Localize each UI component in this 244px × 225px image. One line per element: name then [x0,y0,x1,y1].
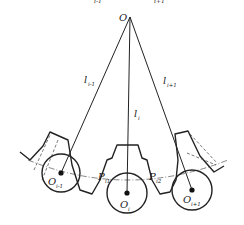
label-l-i-minus-1-sub: i-1 [88,81,95,87]
cropped-label-left: i-1 [94,0,102,4]
label-apex-o: O [119,12,127,23]
label-l-i-plus-1-sub: i+1 [167,82,177,88]
label-l-i: l [134,108,137,119]
label-l-i-plus-1: l [163,75,166,86]
center-o-i-plus-1 [189,187,194,192]
label-p-i2-sub: i2 [156,178,162,184]
label-p-i1-sub: i1 [105,178,110,184]
center-o-i-minus-1 [58,170,63,175]
label-p-i1: P [97,171,105,182]
label-p-i2: P [148,171,156,182]
label-o-i-plus-1: O [183,194,191,205]
ray-l-i-minus-1 [61,17,130,173]
label-l-i-minus-1: l [84,74,87,85]
label-o-i: O [120,199,128,210]
cropped-label-right: i+1 [154,0,165,4]
guide-left [42,140,58,180]
label-o-i-plus-1-sub: i+1 [191,201,201,207]
center-o-i [124,190,129,195]
guide-right-2 [190,134,217,163]
guide-right [187,153,216,165]
label-o-i-minus-1-sub: i-1 [56,183,63,189]
label-o-i-minus-1: O [48,176,56,187]
label-o-i-sub: i [128,206,130,212]
mechanism-diagram: i-1 i+1 O l i-1 l i l i+1 O i-1 O i O i+… [0,0,244,225]
ray-l-i [127,17,130,193]
ray-l-i-plus-1 [130,17,192,190]
label-l-i-sub: i [138,115,140,121]
